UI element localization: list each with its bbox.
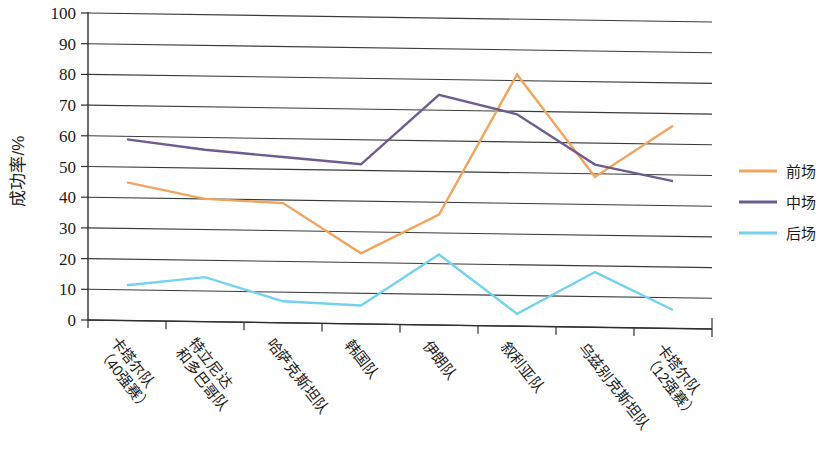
gridline — [88, 228, 712, 237]
gridline — [88, 197, 712, 206]
gridline — [88, 259, 712, 268]
y-tick-label: 70 — [59, 96, 76, 115]
y-tick-label: 20 — [59, 250, 76, 269]
gridlines — [88, 13, 712, 329]
y-axis-ticks: 0102030405060708090100 — [51, 4, 89, 330]
y-tick-label: 90 — [59, 35, 76, 54]
y-tick-label: 30 — [59, 219, 76, 238]
legend-label-3: 后场 — [786, 225, 816, 242]
y-tick-label: 80 — [59, 65, 76, 84]
legend-label-1: 前场 — [786, 163, 816, 180]
y-tick-label: 100 — [51, 4, 77, 23]
x-axis-ticks — [88, 320, 712, 337]
gridline — [88, 74, 712, 83]
y-axis-title-text: 成功率/% — [9, 136, 28, 207]
gridline — [88, 13, 712, 22]
gridline — [88, 105, 712, 114]
y-tick-label: 50 — [59, 158, 76, 177]
gridline — [88, 44, 712, 53]
gridline — [88, 289, 712, 298]
series-line-1 — [127, 74, 673, 253]
y-axis-title: 成功率/% — [9, 136, 28, 207]
gridline — [88, 136, 712, 145]
y-tick-label: 10 — [59, 280, 76, 299]
y-tick-label: 60 — [59, 127, 76, 146]
legend: 前场中场后场 — [739, 163, 816, 242]
legend-label-2: 中场 — [786, 194, 816, 211]
line-chart: 0102030405060708090100 前场中场后场 成功率/% 卡塔尔队… — [0, 0, 829, 465]
series-lines — [127, 74, 673, 313]
y-tick-label: 40 — [59, 188, 76, 207]
gridline — [88, 167, 712, 176]
y-tick-label: 0 — [68, 311, 77, 330]
